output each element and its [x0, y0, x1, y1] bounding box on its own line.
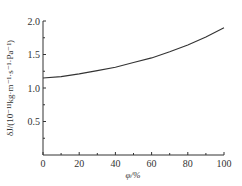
x-tick-label: 100 — [217, 158, 232, 169]
x-tick-label: 80 — [183, 158, 193, 169]
x-tick-label: 40 — [110, 158, 120, 169]
tick-labels: 0204060801000.51.01.52.0 — [28, 16, 232, 170]
x-tick-label: 60 — [147, 158, 157, 169]
data-line — [43, 28, 224, 78]
x-axis-label: φ/% — [126, 170, 141, 180]
y-axis-label: δJ/(10⁻¹¹kg·m⁻¹·s⁻¹·Pa⁻¹) — [5, 40, 15, 136]
y-tick-label: 1.0 — [28, 83, 41, 94]
x-tick-label: 20 — [74, 158, 84, 169]
y-tick-label: 0.5 — [28, 116, 41, 127]
x-tick-label: 0 — [41, 158, 46, 169]
chart: 0204060801000.51.01.52.0 φ/% δJ/(10⁻¹¹kg… — [0, 0, 242, 186]
y-tick-label: 2.0 — [28, 16, 41, 27]
y-tick-label: 1.5 — [28, 49, 41, 60]
